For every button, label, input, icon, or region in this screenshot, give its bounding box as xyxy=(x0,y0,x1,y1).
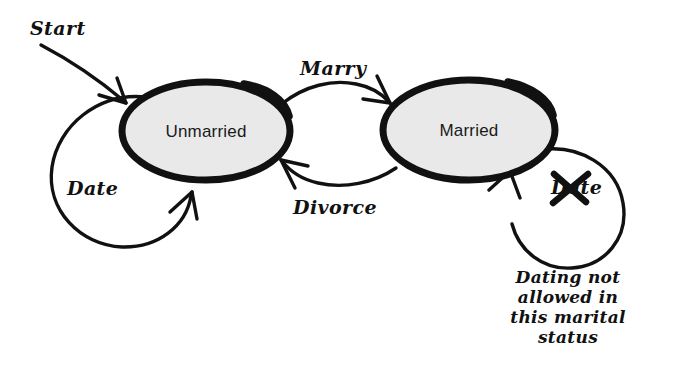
annotation-line-2: allowed in xyxy=(518,287,618,307)
state-unmarried[interactable]: Unmarried xyxy=(122,82,290,180)
start-arrow-path xyxy=(41,45,124,101)
transition-divorce[interactable]: Divorce xyxy=(281,160,396,218)
transition-label-start: Start xyxy=(30,17,86,39)
annotation-line-3: this marital xyxy=(510,307,626,327)
marry-arrowhead-lower xyxy=(377,76,390,103)
transition-label-date-unmarried: Date xyxy=(66,177,118,199)
transition-start[interactable]: Start xyxy=(30,17,126,103)
state-diagram-canvas: Date Start Marry Divorce xyxy=(0,0,678,376)
date-unmarried-arrowhead-right xyxy=(192,192,197,219)
state-married[interactable]: Married xyxy=(383,80,555,180)
annotation-dating-not-allowed: Dating not allowed in this marital statu… xyxy=(510,267,626,347)
annotation-line-1: Dating not xyxy=(515,267,621,287)
state-diagram-svg: Date Start Marry Divorce xyxy=(0,0,678,376)
annotation-line-4: status xyxy=(537,327,598,347)
transition-label-divorce: Divorce xyxy=(292,196,377,218)
state-married-label: Married xyxy=(439,121,498,140)
transition-marry[interactable]: Marry xyxy=(283,57,390,103)
state-unmarried-label: Unmarried xyxy=(165,122,246,141)
transition-label-marry: Marry xyxy=(299,57,368,79)
